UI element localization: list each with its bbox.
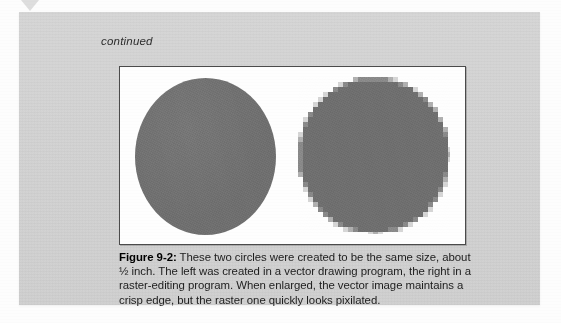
raster-circle bbox=[298, 77, 450, 234]
figure-caption-label: Figure 9-2: bbox=[119, 251, 177, 263]
continued-sidebar-panel: continued Figure 9-2: These two circles … bbox=[19, 12, 540, 305]
continued-label: continued bbox=[101, 35, 153, 47]
vector-circle bbox=[135, 78, 276, 235]
figure-artwork-box bbox=[119, 66, 466, 245]
scanned-page: continued Figure 9-2: These two circles … bbox=[0, 0, 561, 323]
circle-stage bbox=[120, 67, 465, 244]
figure-caption: Figure 9-2: These two circles were creat… bbox=[119, 250, 471, 307]
triangle-down-marker-icon bbox=[21, 0, 39, 11]
raster-circle-pixels bbox=[298, 77, 450, 234]
